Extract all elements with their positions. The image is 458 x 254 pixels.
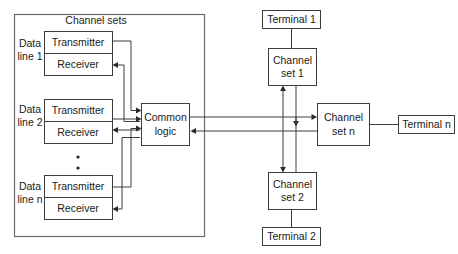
data-line-1-label-top: Data <box>19 37 41 49</box>
data-line-n-label-top: Data <box>19 180 41 192</box>
terminal-n-label: Terminal n <box>402 118 451 130</box>
common-logic-label-line2: logic <box>155 125 177 137</box>
inbound-bus-arrowhead <box>191 128 197 134</box>
common-logic-to-rxn-path <box>116 138 140 210</box>
transmitter-n-label: Transmitter <box>52 180 105 192</box>
cs1-upstream-arrowhead <box>280 86 286 92</box>
terminal-2-label: Terminal 2 <box>267 230 316 242</box>
remote-channel-set-2-label-line1: Channel <box>273 178 312 190</box>
diagram-canvas: Channel sets Data line 1 Transmitter Rec… <box>0 0 458 254</box>
receiver-1-label: Receiver <box>57 58 99 70</box>
transmitter-1-label: Transmitter <box>52 36 105 48</box>
remote-channel-set-1-label-line2: set 1 <box>281 67 304 79</box>
cs2-upstream-arrowhead <box>280 167 286 173</box>
transmitter-2-label: Transmitter <box>52 104 105 116</box>
data-line-1-label-bottom: line 1 <box>17 50 42 62</box>
remote-channel-set-n-label-line1: Channel <box>324 111 363 123</box>
receiver-2-label: Receiver <box>57 126 99 138</box>
ellipsis-dot-2 <box>76 166 79 169</box>
rx2-arrowhead <box>113 127 119 133</box>
outbound-bus-arrowhead <box>312 114 318 120</box>
remote-channel-set-1-label-line1: Channel <box>273 54 312 66</box>
data-line-2-label-top: Data <box>19 103 41 115</box>
tx1-arrowhead <box>136 108 142 114</box>
ellipsis-dot-1 <box>76 155 79 158</box>
remote-channel-set-2-label-line2: set 2 <box>281 191 304 203</box>
rxn-arrowhead <box>113 206 119 212</box>
tx1-to-common-logic-path <box>113 41 141 111</box>
common-logic-label-line1: Common <box>144 111 187 123</box>
terminal-1-label: Terminal 1 <box>267 13 316 25</box>
rx1-arrowhead <box>113 62 119 68</box>
block-diagram: Channel sets Data line 1 Transmitter Rec… <box>0 0 458 254</box>
txn-arrowhead <box>136 126 142 132</box>
data-line-n-label-bottom: line n <box>17 193 42 205</box>
data-line-2-label-bottom: line 2 <box>17 116 42 128</box>
remote-channel-set-n-label-line2: set n <box>332 125 355 137</box>
receiver-n-label: Receiver <box>57 202 99 214</box>
channel-sets-title: Channel sets <box>65 14 126 26</box>
